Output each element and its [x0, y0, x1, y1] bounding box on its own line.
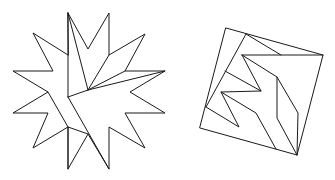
square-cut-line — [206, 34, 246, 107]
dissection-diagram — [0, 0, 335, 180]
square-cut-line — [225, 55, 261, 91]
square-figure — [200, 28, 323, 155]
square-cut-line — [206, 91, 261, 127]
star-figure — [13, 13, 165, 169]
square-cut-line — [246, 34, 281, 55]
diagram-canvas: Dissection of a twelve-pointed star into… — [0, 0, 335, 180]
square-cut-line — [221, 92, 276, 149]
star-outline — [13, 13, 165, 169]
square-cut-line — [277, 77, 298, 155]
star-cut-line — [68, 13, 88, 90]
